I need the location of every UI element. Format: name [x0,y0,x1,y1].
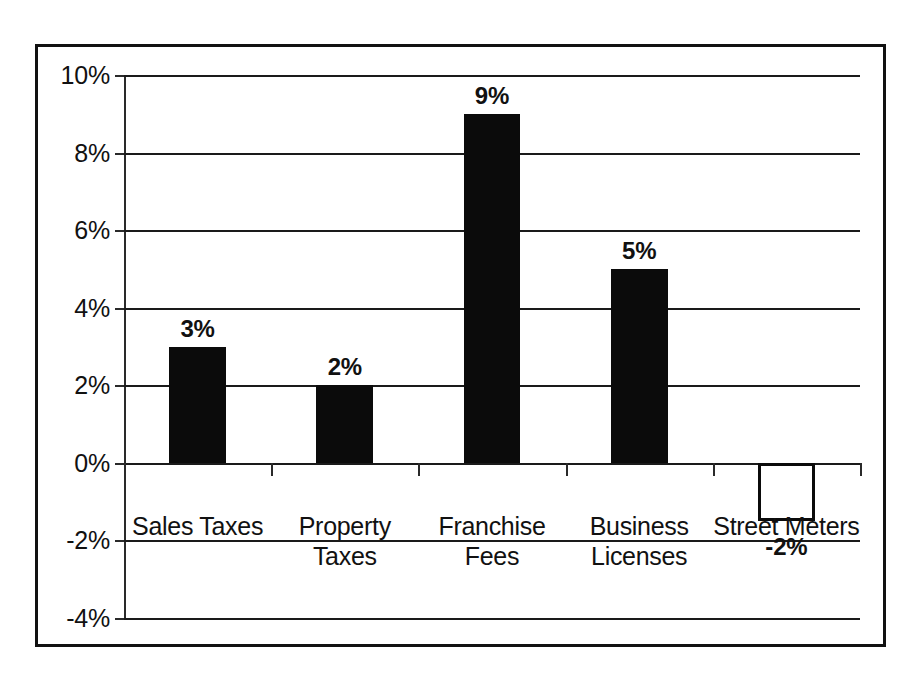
bar-value-label: 9% [475,82,509,110]
bar [316,385,373,463]
y-tick-mark [115,385,124,387]
y-axis-tick-label: -4% [66,604,110,633]
gridline-10pct [124,75,860,77]
bar-value-label: 5% [622,237,656,265]
y-axis-tick-label: -2% [66,526,110,555]
y-axis-tick-label: 2% [74,371,110,400]
chart-frame: 10%8%6%4%2%0%-2%-4% 3%2%9%5%-2% Sales Ta… [35,44,886,647]
y-tick-mark [115,308,124,310]
bar-value-label: 2% [328,353,362,381]
y-tick-mark [115,230,124,232]
x-axis-category-label: Street Meters [696,511,877,542]
y-tick-mark [115,463,124,465]
bar-value-label: 3% [180,315,214,343]
y-axis-tick-label: 8% [74,138,110,167]
y-tick-mark [115,618,124,620]
x-tick-mark [713,463,715,476]
x-tick-mark [124,463,126,476]
y-axis-tick-label: 10% [61,61,110,90]
y-tick-mark [115,75,124,77]
y-axis-tick-label: 4% [74,293,110,322]
x-tick-mark [860,463,862,476]
bar [611,269,668,463]
plot-area: 10%8%6%4%2%0%-2%-4% 3%2%9%5%-2% Sales Ta… [124,75,860,618]
y-tick-mark [115,153,124,155]
x-tick-mark [566,463,568,476]
bar [169,347,226,463]
gridline-0pct [124,463,860,465]
bar [464,114,521,463]
bar-chart: 10%8%6%4%2%0%-2%-4% 3%2%9%5%-2% Sales Ta… [0,0,924,682]
y-axis-tick-label: 0% [74,448,110,477]
x-tick-mark [271,463,273,476]
gridline-neg4pct [124,618,860,620]
y-axis-tick-label: 6% [74,216,110,245]
x-tick-mark [418,463,420,476]
